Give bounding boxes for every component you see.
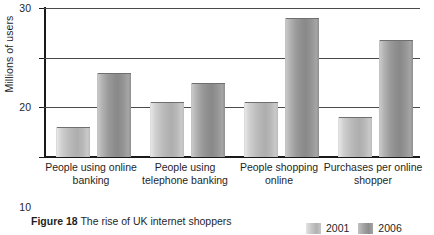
bar-2001-4 (338, 117, 372, 157)
plot-area: 0102030 (44, 8, 420, 157)
bar-2001-1 (56, 127, 90, 157)
bar-top-edge (339, 117, 372, 118)
bar-top-edge (57, 127, 90, 128)
y-axis-tick: 0 (39, 157, 44, 158)
bar-2006-1 (97, 73, 131, 157)
figure-container: Millions of users 0102030 People using o… (0, 0, 434, 235)
legend-item-2006: 2006 (358, 222, 401, 234)
x-axis-category-label: People using telephone banking (132, 161, 238, 186)
legend-swatch-2001 (306, 223, 321, 234)
bar-2006-4 (379, 40, 413, 157)
bar-2001-3 (244, 102, 278, 157)
bar-2006-3 (285, 18, 319, 157)
bar-top-edge (286, 18, 319, 19)
chart-legend: 20012006 (306, 222, 402, 234)
y-axis-tick-label: 20 (19, 101, 31, 113)
x-axis-category-label: People using online banking (38, 161, 144, 186)
y-axis-tick-label: 10 (19, 201, 31, 213)
figure-caption: Figure 18 The rise of UK internet shoppe… (31, 215, 232, 227)
bar-top-edge (192, 83, 225, 84)
y-axis-tick-label: 30 (19, 2, 31, 14)
figure-caption-text: The rise of UK internet shoppers (80, 215, 231, 227)
bar-top-edge (380, 40, 413, 41)
legend-swatch-2006 (358, 223, 373, 234)
x-axis-category-labels: People using online bankingPeople using … (44, 161, 420, 209)
legend-item-2001: 2001 (306, 222, 349, 234)
legend-label-2006: 2006 (378, 222, 401, 234)
figure-caption-number: Figure 18 (31, 215, 78, 227)
legend-label-2001: 2001 (326, 222, 349, 234)
x-axis-category-label: Purchases per online shopper (320, 161, 426, 186)
bar-top-edge (151, 102, 184, 103)
x-axis-category-label: People shopping online (226, 161, 332, 186)
bar-top-edge (98, 73, 131, 74)
bar-2006-2 (191, 83, 225, 158)
y-axis-title: Millions of users (3, 0, 15, 109)
bar-2001-2 (150, 102, 184, 157)
bar-top-edge (245, 102, 278, 103)
bar-series-group (44, 8, 420, 157)
